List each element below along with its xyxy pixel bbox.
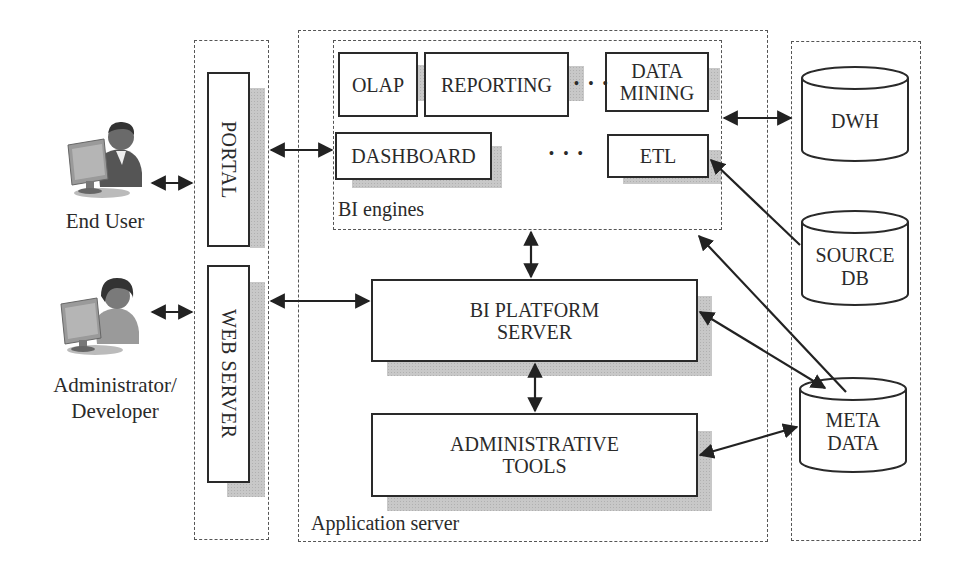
portal-shadow (250, 88, 265, 248)
web-server-label: WEB SERVER (218, 309, 240, 439)
etl-engine[interactable]: ETL (607, 134, 709, 178)
olap-label: OLAP (352, 74, 404, 96)
engines-ellipsis-top: • • • (574, 76, 611, 92)
engines-ellipsis-bottom: • • • (549, 146, 586, 162)
data-mining-engine[interactable]: DATA MINING (605, 52, 709, 112)
end-user-label: End User (45, 208, 165, 234)
portal-label: PORTAL (218, 121, 240, 199)
etl-label: ETL (640, 145, 677, 167)
source-db-label-line2: DB (800, 267, 910, 290)
bi-platform-label-line1: BI PLATFORM (470, 299, 599, 321)
developer-at-computer-icon (55, 272, 145, 357)
dwh-database[interactable]: DWH (800, 66, 910, 162)
metadata-label-line1: META (798, 409, 908, 432)
source-db-label: SOURCE DB (800, 244, 910, 290)
admin-developer-label: Administrator/ Developer (30, 372, 200, 425)
web-server-box[interactable]: WEB SERVER (207, 265, 250, 483)
application-server-label: Application server (311, 512, 459, 535)
metadata-database[interactable]: META DATA (798, 377, 908, 473)
admin-label-line1: Administrator/ (30, 372, 200, 398)
dashboard-engine[interactable]: DASHBOARD (335, 132, 492, 180)
data-mining-label-line1: DATA (631, 60, 683, 82)
metadata-label: META DATA (798, 409, 908, 455)
source-db-label-line1: SOURCE (800, 244, 910, 267)
dwh-label: DWH (800, 110, 910, 133)
admin-tools-label-line1: ADMINISTRATIVE (450, 433, 619, 455)
reporting-engine[interactable]: REPORTING (424, 52, 569, 117)
source-db-database[interactable]: SOURCE DB (800, 210, 910, 306)
user-at-computer-icon (60, 115, 150, 200)
admin-actor (55, 272, 145, 357)
bi-platform-label-line2: SERVER (497, 321, 572, 343)
end-user-actor (60, 115, 150, 200)
metadata-label-line2: DATA (798, 432, 908, 455)
bi-platform-server[interactable]: BI PLATFORM SERVER (371, 279, 698, 362)
dashboard-label: DASHBOARD (351, 145, 475, 167)
admin-tools-label-line2: TOOLS (502, 455, 566, 477)
reporting-label: REPORTING (441, 74, 552, 96)
admin-label-line2: Developer (30, 398, 200, 424)
olap-engine[interactable]: OLAP (338, 52, 418, 117)
administrative-tools[interactable]: ADMINISTRATIVE TOOLS (371, 413, 698, 497)
portal-box[interactable]: PORTAL (207, 72, 250, 247)
bi-engines-label: BI engines (338, 198, 424, 221)
data-mining-label-line2: MINING (620, 82, 694, 104)
